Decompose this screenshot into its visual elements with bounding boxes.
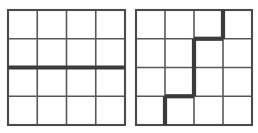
right-grid-figure [132, 6, 256, 129]
right-grid [132, 6, 256, 129]
left-grid [4, 6, 129, 129]
left-grid-figure [4, 6, 129, 129]
figure-canvas [0, 0, 258, 133]
